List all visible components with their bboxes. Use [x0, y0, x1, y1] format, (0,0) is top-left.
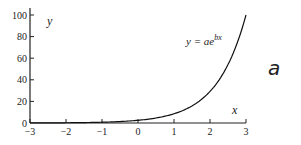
x-tick-label: 0 — [136, 126, 141, 137]
y-tick-label: 20 — [17, 96, 27, 107]
exponential-chart: −3−2−10123 020406080100 y x y = aebx — [0, 0, 301, 145]
x-axis-label: x — [231, 103, 238, 117]
x-tick-label: −2 — [61, 126, 72, 137]
y-tick-label: 40 — [17, 74, 27, 85]
x-tick-label: 3 — [244, 126, 249, 137]
y-tick-label: 80 — [17, 31, 27, 42]
y-ticks: 020406080100 — [12, 10, 34, 129]
y-axis-label: y — [46, 14, 53, 28]
panel-label: a — [268, 56, 280, 80]
x-ticks: −3−2−10123 — [25, 119, 249, 137]
y-tick-label: 0 — [22, 118, 27, 129]
x-tick-label: 2 — [208, 126, 213, 137]
y-tick-label: 60 — [17, 53, 27, 64]
y-tick-label: 100 — [12, 10, 27, 21]
x-tick-label: −1 — [97, 126, 108, 137]
equation-label: y = aebx — [185, 33, 222, 47]
exponential-curve — [30, 15, 246, 123]
x-tick-label: 1 — [172, 126, 177, 137]
axes — [30, 8, 246, 123]
